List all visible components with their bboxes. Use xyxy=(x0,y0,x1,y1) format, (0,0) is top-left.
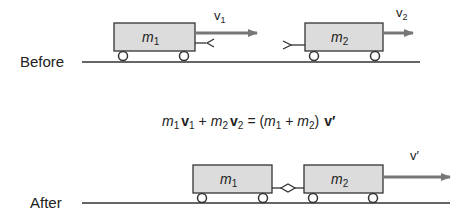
wheel-icon xyxy=(119,52,128,61)
before-cart-1: m1 xyxy=(114,23,214,61)
wheel-icon xyxy=(371,52,380,61)
wheel-icon xyxy=(309,194,318,203)
wheel-icon xyxy=(198,194,207,203)
wheel-icon xyxy=(180,52,189,61)
after-cart-1: m1 xyxy=(193,165,272,203)
after-label: After xyxy=(30,194,62,211)
before-cart-2: m2 xyxy=(283,23,383,61)
coupled-link-icon xyxy=(272,184,304,192)
velocity-label-v2: v2 xyxy=(396,5,408,22)
after-cart-2: m2 xyxy=(304,165,383,203)
wheel-icon xyxy=(259,194,268,203)
wheel-icon xyxy=(369,194,378,203)
velocity-label-vprime: v′ xyxy=(410,148,420,163)
momentum-diagram: Before m1 v1 m2 v2 m1v1+m2v2= (m1 + m2)v… xyxy=(0,0,465,221)
momentum-equation: m1v1+m2v2= (m1 + m2)v′ xyxy=(162,113,336,131)
before-label: Before xyxy=(20,53,64,70)
velocity-label-v1: v1 xyxy=(214,8,226,25)
wheel-icon xyxy=(310,52,319,61)
